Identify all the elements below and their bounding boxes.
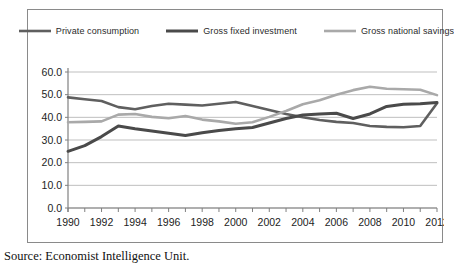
svg-text:2006: 2006 [325, 216, 349, 228]
chart-frame: Private consumption Gross fixed investme… [27, 9, 443, 243]
svg-text:40.0: 40.0 [42, 111, 63, 123]
svg-text:0.0: 0.0 [47, 202, 62, 214]
y-tick-labels: 0.010.020.030.040.050.060.0 [42, 66, 68, 214]
svg-text:2002: 2002 [258, 216, 282, 228]
svg-text:60.0: 60.0 [42, 66, 63, 78]
svg-text:1994: 1994 [123, 216, 147, 228]
series-lines [68, 87, 437, 152]
x-tick-labels: 1990199219941996199820002002200420062008… [56, 216, 444, 228]
svg-text:2004: 2004 [291, 216, 315, 228]
svg-text:20.0: 20.0 [42, 156, 63, 168]
svg-text:10.0: 10.0 [42, 179, 63, 191]
x-tick-marks [68, 208, 437, 212]
svg-text:1990: 1990 [56, 216, 80, 228]
svg-text:1996: 1996 [157, 216, 181, 228]
gridlines [68, 72, 437, 208]
svg-text:2000: 2000 [224, 216, 248, 228]
plot-area: 0.010.020.030.040.050.060.0 199019921994… [28, 10, 444, 244]
svg-text:50.0: 50.0 [42, 88, 63, 100]
svg-text:30.0: 30.0 [42, 134, 63, 146]
svg-text:1998: 1998 [191, 216, 215, 228]
svg-text:1992: 1992 [90, 216, 114, 228]
svg-text:2010: 2010 [392, 216, 416, 228]
svg-text:2008: 2008 [358, 216, 382, 228]
source-caption: Source: Economist Intelligence Unit. [4, 249, 189, 264]
svg-text:2012: 2012 [425, 216, 444, 228]
